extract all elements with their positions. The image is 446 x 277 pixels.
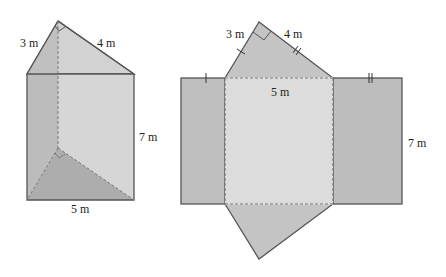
net-right-rectangle bbox=[333, 78, 402, 204]
prism-label-7m: 7 m bbox=[139, 130, 158, 144]
net-label-5m: 5 m bbox=[271, 85, 290, 99]
prism-label-4m: 4 m bbox=[97, 36, 116, 50]
prism-net: 3 m 4 m 5 m 7 m bbox=[181, 22, 427, 259]
prism-label-3m: 3 m bbox=[20, 36, 39, 50]
net-label-3m: 3 m bbox=[226, 27, 245, 41]
diagram-canvas: 3 m 4 m 7 m 5 m 3 m 4 m 5 bbox=[0, 0, 446, 277]
prism-label-5m: 5 m bbox=[71, 202, 90, 216]
net-bottom-triangle bbox=[225, 204, 333, 259]
triangular-prism: 3 m 4 m 7 m 5 m bbox=[20, 21, 158, 216]
net-label-7m: 7 m bbox=[408, 136, 427, 150]
net-label-4m: 4 m bbox=[284, 27, 303, 41]
net-left-rectangle bbox=[181, 78, 225, 204]
